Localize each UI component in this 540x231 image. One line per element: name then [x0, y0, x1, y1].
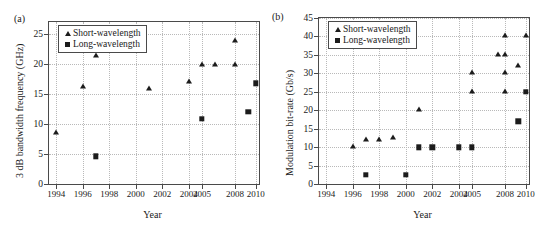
x-axis-tick-label: 2010: [247, 189, 265, 199]
data-point-short-wavelength: [502, 88, 508, 93]
x-axis-tick-label: 1998: [370, 189, 388, 199]
legend-item: Long-wavelength: [62, 39, 141, 50]
y-axis-tick: [314, 184, 319, 185]
x-axis-tick-label: 2005: [193, 189, 211, 199]
y-axis-tick: [314, 92, 319, 93]
data-point-short-wavelength: [350, 144, 356, 149]
y-axis-tick-label: 20: [34, 59, 44, 69]
legend-item-label: Short-wavelength: [73, 28, 141, 39]
data-point-short-wavelength: [363, 136, 369, 141]
gridline-vertical: [189, 22, 190, 184]
data-point-short-wavelength: [390, 134, 396, 139]
data-point-short-wavelength: [376, 136, 382, 141]
data-point-short-wavelength: [502, 33, 508, 38]
panel-a: (a) 3 dB bandwidth frequency (GHz) Year …: [0, 0, 270, 231]
x-axis-tick-label: 2008: [226, 189, 244, 199]
triangle-marker-icon: [62, 31, 73, 36]
gridline-horizontal: [49, 94, 259, 95]
data-point-long-wavelength: [253, 80, 258, 85]
panel-a-plot-area: 0510152025199419961998200020022004200520…: [48, 21, 260, 185]
y-axis-tick-label: 25: [34, 29, 44, 39]
x-axis-tick-label: 1998: [100, 189, 118, 199]
data-point-long-wavelength: [429, 144, 434, 149]
data-point-short-wavelength: [495, 51, 501, 56]
data-point-short-wavelength: [232, 61, 238, 66]
gridline-horizontal: [49, 154, 259, 155]
y-axis-tick: [44, 64, 49, 65]
x-axis-tick-label: 1996: [344, 189, 362, 199]
y-axis-tick: [314, 110, 319, 111]
data-point-short-wavelength: [232, 38, 238, 43]
legend-item-label: Short-wavelength: [343, 24, 411, 35]
y-axis-tick: [44, 184, 49, 185]
x-axis-tick-label: 2000: [127, 189, 145, 199]
data-point-short-wavelength: [502, 70, 508, 75]
y-axis-tick: [44, 34, 49, 35]
panel-b-x-axis-label: Year: [315, 209, 530, 220]
gridline-horizontal: [319, 129, 529, 130]
y-axis-tick-label: 30: [304, 68, 314, 78]
y-axis-tick-label: 20: [304, 105, 314, 115]
legend-item-label: Long-wavelength: [343, 35, 410, 46]
panel-a-x-axis-label: Year: [45, 209, 260, 220]
x-axis-tick-label: 1994: [47, 189, 65, 199]
legend-item: Short-wavelength: [332, 24, 411, 35]
data-point-short-wavelength: [80, 83, 86, 88]
x-axis-tick-label: 2008: [496, 189, 514, 199]
x-axis-tick-label: 2005: [463, 189, 481, 199]
y-axis-tick-label: 15: [34, 89, 44, 99]
data-point-short-wavelength: [502, 51, 508, 56]
data-point-short-wavelength: [199, 61, 205, 66]
data-point-short-wavelength: [523, 33, 529, 38]
data-point-short-wavelength: [53, 130, 59, 135]
square-marker-icon: [332, 38, 343, 43]
y-axis-tick-label: 25: [304, 87, 314, 97]
legend-item-label: Long-wavelength: [73, 39, 140, 50]
data-point-short-wavelength: [186, 79, 192, 84]
panel-b-y-axis-label: Modulation bit-rate (Gb/s): [284, 70, 295, 176]
gridline-vertical: [256, 22, 257, 184]
data-point-short-wavelength: [212, 61, 218, 66]
y-axis-tick-label: 0: [38, 179, 43, 189]
gridline-vertical: [526, 18, 527, 184]
panel-a-y-axis-label: 3 dB bandwidth frequency (GHz): [14, 44, 25, 178]
gridline-horizontal: [319, 166, 529, 167]
y-axis-tick-label: 35: [304, 50, 314, 60]
data-point-short-wavelength: [93, 53, 99, 58]
figure-container: (a) 3 dB bandwidth frequency (GHz) Year …: [0, 0, 540, 231]
data-point-long-wavelength: [363, 172, 368, 177]
gridline-vertical: [505, 18, 506, 184]
gridline-vertical: [202, 22, 203, 184]
y-axis-tick: [44, 94, 49, 95]
gridline-horizontal: [319, 92, 529, 93]
panel-a-label: (a): [14, 13, 25, 24]
panel-b-label: (b): [272, 11, 284, 22]
y-axis-tick-label: 10: [34, 119, 44, 129]
y-axis-tick: [44, 124, 49, 125]
x-axis-tick-label: 1996: [74, 189, 92, 199]
data-point-long-wavelength: [416, 144, 421, 149]
y-axis-tick-label: 15: [304, 124, 314, 134]
square-marker-icon: [62, 42, 73, 47]
y-axis-tick: [314, 36, 319, 37]
legend-item: Short-wavelength: [62, 28, 141, 39]
panel-b-legend: Short-wavelengthLong-wavelength: [328, 21, 417, 49]
x-axis-tick-label: 2000: [397, 189, 415, 199]
data-point-long-wavelength: [469, 144, 474, 149]
data-point-short-wavelength: [469, 88, 475, 93]
y-axis-tick: [314, 147, 319, 148]
gridline-vertical: [459, 18, 460, 184]
data-point-long-wavelength: [199, 116, 204, 121]
data-point-long-wavelength: [403, 172, 408, 177]
gridline-horizontal: [49, 64, 259, 65]
y-axis-tick: [314, 166, 319, 167]
data-point-long-wavelength: [246, 109, 251, 114]
panel-a-legend: Short-wavelengthLong-wavelength: [58, 25, 147, 53]
gridline-horizontal: [49, 124, 259, 125]
x-axis-tick-label: 2002: [423, 189, 441, 199]
gridline-vertical: [235, 22, 236, 184]
data-point-short-wavelength: [146, 85, 152, 90]
y-axis-tick: [314, 55, 319, 56]
panel-b: (b) Modulation bit-rate (Gb/s) Year 0510…: [270, 0, 540, 231]
y-axis-tick-label: 10: [304, 142, 314, 152]
